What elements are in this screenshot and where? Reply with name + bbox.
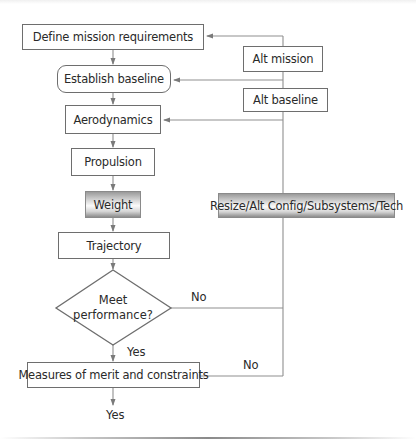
meet-performance-line2: performance? [63,308,163,323]
trajectory-box: Trajectory [58,232,170,259]
meet-yes-label: Yes [127,345,146,359]
aerodynamics-box: Aerodynamics [65,105,161,134]
measures-no-label: No [243,358,259,372]
establish-baseline-box: Establish baseline [57,65,171,93]
propulsion-label: Propulsion [84,155,142,169]
measures-yes-label: Yes [106,408,125,422]
resize-alt-config-box: Resize/Alt Config/Subsystems/Tech [218,193,395,218]
establish-baseline-label: Establish baseline [64,72,164,86]
propulsion-box: Propulsion [71,148,155,176]
weight-label: Weight [94,198,133,212]
alt-mission-label: Alt mission [253,52,314,66]
meet-performance-line1: Meet [63,293,163,308]
measures-of-merit-box: Measures of merit and constraints [27,362,200,388]
define-mission-requirements-label: Define mission requirements [33,30,193,44]
aerodynamics-label: Aerodynamics [73,113,152,127]
define-mission-requirements-box: Define mission requirements [22,24,204,50]
trajectory-label: Trajectory [87,239,142,253]
bottom-divider [0,437,416,439]
alt-baseline-box: Alt baseline [243,88,328,112]
meet-performance-text: Meet performance? [63,293,163,323]
measures-of-merit-label: Measures of merit and constraints [18,368,208,382]
weight-box: Weight [85,191,141,218]
alt-mission-box: Alt mission [243,46,323,72]
resize-alt-config-label: Resize/Alt Config/Subsystems/Tech [210,199,403,213]
alt-baseline-label: Alt baseline [253,93,318,107]
meet-no-label: No [191,290,207,304]
